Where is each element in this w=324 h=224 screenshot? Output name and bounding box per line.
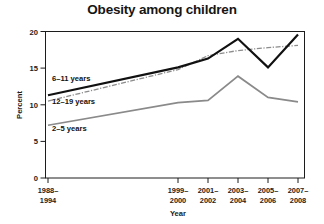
y-tick-10: 10 [30, 101, 38, 110]
chart-svg: 0 5 10 15 20 Percent 1988– 1994 1999– 20… [0, 0, 324, 224]
series-label-6-11: 6–11 years [52, 74, 90, 83]
x-tick-1-line1: 1999– [168, 186, 189, 195]
y-tick-5: 5 [34, 137, 39, 146]
y-tick-20: 20 [30, 28, 38, 37]
chart-container: Obesity among children 0 5 10 15 20 Perc… [0, 0, 324, 224]
x-tick-2-line2: 2002 [200, 196, 216, 205]
x-axis-ticks [48, 178, 298, 183]
x-tick-5-line1: 2007– [288, 186, 309, 195]
y-tick-15: 15 [30, 64, 39, 73]
x-tick-2-line1: 2001– [198, 186, 219, 195]
series-label-2-5: 2–5 years [52, 124, 87, 133]
x-tick-0-line1: 1988– [38, 186, 59, 195]
y-axis-ticks [41, 32, 46, 179]
x-tick-4-line1: 2005– [258, 186, 279, 195]
x-tick-1-line2: 2000 [170, 196, 186, 205]
series-label-12-19: 12–19 years [52, 97, 95, 106]
y-axis-title: Percent [15, 91, 24, 119]
series-line-6-11-years [48, 34, 298, 95]
x-tick-0-line2: 1994 [40, 196, 57, 205]
x-tick-5-line2: 2008 [290, 196, 306, 205]
x-tick-4-line2: 2006 [260, 196, 276, 205]
x-tick-3-line2: 2004 [230, 196, 247, 205]
x-axis-labels: 1988– 1994 1999– 2000 2001– 2002 2003– 2… [38, 186, 309, 205]
x-tick-3-line1: 2003– [228, 186, 249, 195]
x-axis-title: Year [170, 209, 186, 218]
y-axis-labels: 0 5 10 15 20 [30, 28, 39, 184]
y-tick-0: 0 [34, 174, 38, 183]
